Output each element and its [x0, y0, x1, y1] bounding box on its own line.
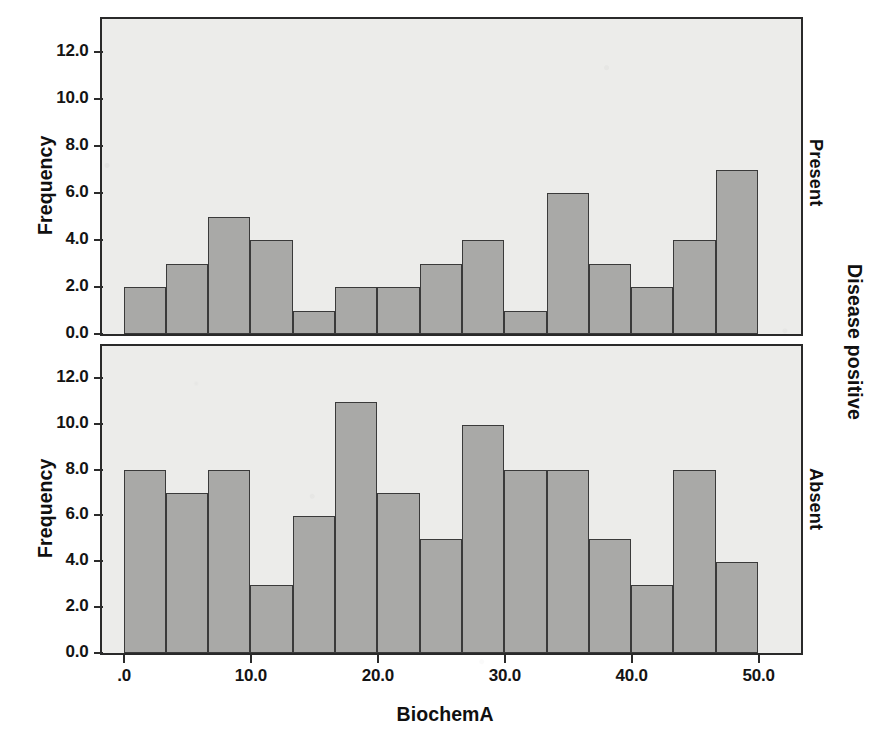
histogram-bar: [504, 470, 546, 653]
x-axis-tick-label: 10.0: [206, 666, 296, 686]
x-axis-tick-label: 30.0: [460, 666, 550, 686]
strip-label-absent: Absent: [805, 468, 826, 530]
y-axis-tick: [94, 51, 103, 53]
y-axis-tick: [94, 560, 103, 562]
y-axis-tick-label: 2.0: [25, 596, 89, 616]
x-axis-tick-label: 50.0: [714, 666, 804, 686]
y-axis-tick: [94, 333, 103, 335]
histogram-bar: [377, 493, 419, 653]
y-axis-tick-label: 8.0: [25, 459, 89, 479]
histogram-bar: [377, 287, 419, 334]
y-axis-tick: [94, 145, 103, 147]
x-axis-tick: [377, 653, 379, 663]
plot-area-absent: [102, 346, 801, 653]
histogram-bar: [716, 562, 758, 653]
y-axis-tick: [94, 286, 103, 288]
histogram-bar: [462, 240, 504, 334]
histogram-bar: [124, 470, 166, 653]
x-axis-title: BiochemA: [397, 703, 494, 726]
y-axis-tick-label: 0.0: [25, 323, 89, 343]
histogram-bar: [631, 585, 673, 654]
outer-panel-label: Disease positive: [843, 264, 866, 420]
panel-present: [100, 17, 803, 336]
histogram-bar: [166, 264, 208, 334]
y-axis-tick-label: 2.0: [25, 276, 89, 296]
y-axis-tick: [94, 652, 103, 654]
x-axis-tick-label: 20.0: [333, 666, 423, 686]
histogram-bar: [250, 240, 292, 334]
histogram-bar: [124, 287, 166, 334]
y-axis-tick: [94, 469, 103, 471]
y-axis-tick-label: 10.0: [25, 413, 89, 433]
y-axis-tick-label: 6.0: [25, 182, 89, 202]
histogram-bar: [631, 287, 673, 334]
plot-area-present: [102, 19, 801, 334]
y-axis-tick-label: 6.0: [25, 504, 89, 524]
y-axis-tick: [94, 514, 103, 516]
x-axis-tick-label: .0: [79, 666, 169, 686]
y-axis-tick-label: 10.0: [25, 88, 89, 108]
histogram-figure: Frequency Frequency 0.02.04.06.08.010.01…: [0, 0, 892, 752]
histogram-bar: [716, 170, 758, 334]
histogram-bar: [293, 516, 335, 653]
histogram-bar: [208, 470, 250, 653]
x-axis-tick: [631, 653, 633, 663]
y-axis-tick-label: 4.0: [25, 550, 89, 570]
panel-absent: [100, 344, 803, 655]
y-axis-tick: [94, 377, 103, 379]
histogram-bar: [166, 493, 208, 653]
y-axis-tick: [94, 239, 103, 241]
histogram-bar: [673, 240, 715, 334]
histogram-bar: [208, 217, 250, 334]
y-axis-tick-label: 12.0: [25, 367, 89, 387]
histogram-bar: [335, 402, 377, 653]
x-axis-tick-label: 40.0: [587, 666, 677, 686]
y-axis-tick: [94, 606, 103, 608]
histogram-bar: [420, 539, 462, 653]
histogram-bar: [335, 287, 377, 334]
histogram-bar: [547, 470, 589, 653]
y-axis-tick-label: 12.0: [25, 41, 89, 61]
histogram-bar: [673, 470, 715, 653]
y-axis-tick-label: 0.0: [25, 642, 89, 662]
x-axis-tick: [123, 653, 125, 663]
histogram-bar: [420, 264, 462, 334]
y-axis-tick: [94, 98, 103, 100]
x-axis-tick: [250, 653, 252, 663]
histogram-bar: [462, 425, 504, 653]
histogram-bar: [589, 264, 631, 334]
x-axis-tick: [504, 653, 506, 663]
histogram-bar: [293, 311, 335, 334]
y-axis-tick-label: 8.0: [25, 135, 89, 155]
x-axis-tick: [758, 653, 760, 663]
y-axis-tick-label: 4.0: [25, 229, 89, 249]
histogram-bar: [547, 193, 589, 334]
y-axis-tick: [94, 192, 103, 194]
strip-label-present: Present: [805, 139, 826, 206]
y-axis-tick: [94, 423, 103, 425]
histogram-bar: [589, 539, 631, 653]
histogram-bar: [250, 585, 292, 654]
histogram-bar: [504, 311, 546, 334]
